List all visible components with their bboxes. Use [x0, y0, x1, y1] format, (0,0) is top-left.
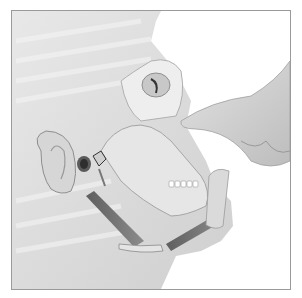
anatomy-illustration [12, 11, 290, 289]
illustration-frame [11, 10, 291, 290]
teeth [169, 181, 198, 187]
